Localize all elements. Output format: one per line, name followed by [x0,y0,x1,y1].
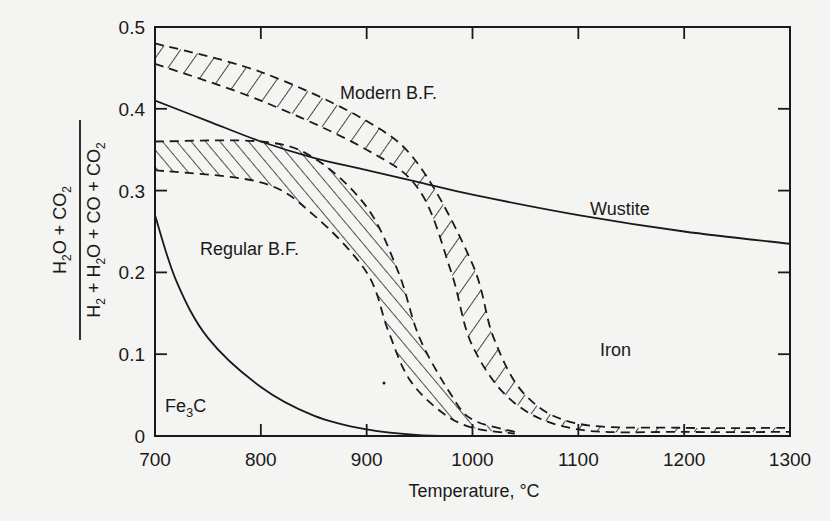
region-label-regular-bf: Regular B.F. [200,239,299,259]
x-tick-label: 1200 [663,449,705,470]
y-tick-label: 0.3 [119,181,145,202]
x-tick-label: 800 [245,449,277,470]
region-label-fe3c: Fe3C [165,396,206,420]
x-tick-label: 1000 [451,449,493,470]
region-label-wustite: Wustite [590,199,650,219]
modern-bf-band [155,43,790,432]
svg-text:H2 + H2O + CO + CO2: H2 + H2O + CO + CO2 [84,142,108,318]
y-axis-title: H2O + CO2 H2 + H2O + CO + CO2 [50,120,108,340]
y-tick-label: 0.4 [119,99,146,120]
y-tick-label: 0.1 [119,344,145,365]
x-tick-label: 700 [139,449,171,470]
chart: 700800900100011001200130000.10.20.30.40.… [0,0,830,521]
x-tick-label: 1100 [558,449,599,470]
region-label-modern-bf: Modern B.F. [340,83,437,103]
x-axis-title: Temperature, °C [408,481,539,501]
region-label-iron: Iron [600,340,631,360]
y-tick-label: 0 [134,426,145,447]
y-tick-label: 0.5 [119,17,145,38]
stray-dot [383,382,386,385]
x-tick-label: 900 [351,449,383,470]
svg-text:H2O + CO2: H2O + CO2 [50,186,74,274]
x-tick-label: 1300 [769,449,811,470]
modern-bf-upper-line [155,43,790,428]
y-tick-label: 0.2 [119,262,145,283]
